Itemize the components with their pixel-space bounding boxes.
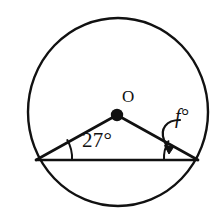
geometry-canvas	[0, 0, 224, 221]
left-angle-label: 27°	[82, 130, 112, 151]
geometry-figure: O 27° f°	[0, 0, 224, 221]
angle-arc-left-mark	[67, 140, 72, 160]
right-angle-label: f°	[175, 106, 189, 126]
center-label: O	[122, 88, 134, 105]
center-dot	[111, 109, 123, 121]
